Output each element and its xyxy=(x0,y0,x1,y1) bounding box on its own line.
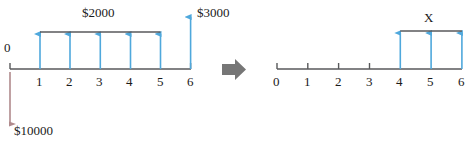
right-tick-label-6: 6 xyxy=(458,75,465,88)
left-tick-label-1: 1 xyxy=(36,75,43,88)
right-tick-label-1: 1 xyxy=(304,75,311,88)
left-tick-label-5: 5 xyxy=(157,75,164,88)
right-timeline-group xyxy=(277,31,462,69)
transition-right-block-arrow-icon xyxy=(222,59,246,80)
left-origin-label: 0 xyxy=(4,41,11,54)
left-tick-label-6: 6 xyxy=(187,75,194,88)
left-tick-label-3: 3 xyxy=(96,75,103,88)
right-bracket-label: X xyxy=(424,11,433,24)
cash-flow-figure: 0 $2000 $3000 $10000 1 2 3 4 5 6 X 0 1 2… xyxy=(0,0,471,147)
left-tick-label-2: 2 xyxy=(66,75,73,88)
right-tick-label-5: 5 xyxy=(427,75,434,88)
left-bracket-label: $2000 xyxy=(82,6,115,19)
left-tick-label-4: 4 xyxy=(126,75,133,88)
left-single-inflow-label: $3000 xyxy=(197,6,230,19)
left-timeline-group xyxy=(10,17,191,124)
left-outflow-label: $10000 xyxy=(14,124,53,137)
right-tick-label-0: 0 xyxy=(273,75,280,88)
right-tick-label-3: 3 xyxy=(366,75,373,88)
right-tick-label-4: 4 xyxy=(396,75,403,88)
right-tick-label-2: 2 xyxy=(335,75,342,88)
